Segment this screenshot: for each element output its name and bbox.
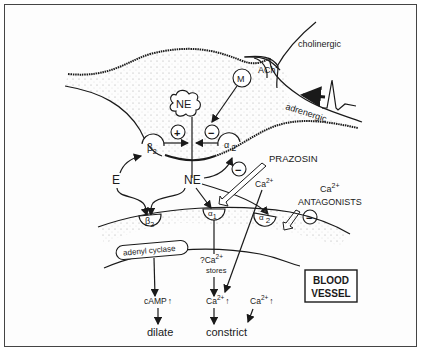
calcium-stores: ?Ca2+ stores <box>200 220 227 296</box>
muscarinic-label: M <box>237 74 245 84</box>
svg-text:Ca2+: Ca2+ <box>320 182 340 194</box>
svg-text:+: + <box>174 127 180 139</box>
action-potential-icon <box>322 80 356 110</box>
norepinephrine-label: NE <box>184 173 201 187</box>
second-messengers: cAMP↑ Ca2+↑ Ca2+↑ <box>144 294 274 324</box>
impulse-direction-arrow <box>303 95 325 97</box>
vascular-receptor-diagram: ACh cholinergic M adrenergic NE + − β2 α… <box>0 0 422 354</box>
svg-text:−: − <box>208 127 214 139</box>
cholinergic-label: cholinergic <box>298 39 342 49</box>
ach-label: ACh <box>258 65 276 75</box>
epinephrine-label: E <box>112 173 120 187</box>
blood-vessel-title: BLOOD VESSEL <box>305 270 357 302</box>
antagonists-label: ANTAGONISTS <box>298 197 362 207</box>
prazosin-label: PRAZOSIN <box>269 153 318 164</box>
outcomes: dilate constrict <box>147 326 247 338</box>
svg-text:VESSEL: VESSEL <box>311 288 350 299</box>
ca-increase-influx: Ca2+↑ <box>250 294 274 306</box>
dilate-label: dilate <box>147 326 173 338</box>
svg-text:Ca2+: Ca2+ <box>255 177 273 189</box>
constrict-label: constrict <box>206 326 247 338</box>
svg-text:−: − <box>235 164 241 176</box>
camp-increase: cAMP↑ <box>144 296 172 306</box>
svg-text:?Ca2+: ?Ca2+ <box>200 253 223 265</box>
adrenergic-nerve-terminal <box>65 49 362 161</box>
adenyl-cyclase: adenyl cyclase <box>116 240 189 296</box>
stores-label: stores <box>206 266 227 275</box>
ca-increase-stores: Ca2+↑ <box>206 294 230 306</box>
svg-text:BLOOD: BLOOD <box>313 275 349 286</box>
vesicle-ne-label: NE <box>176 98 191 110</box>
